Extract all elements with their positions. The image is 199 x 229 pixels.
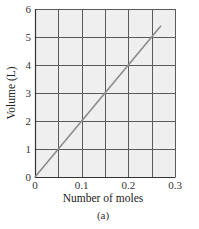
x-tick-label: 0.3 (168, 179, 182, 191)
y-tick-label: 3 (26, 87, 32, 99)
y-tick-label: 5 (26, 31, 32, 43)
y-tick-label: 2 (26, 115, 32, 127)
x-tick-labels: 00.10.20.3 (32, 179, 182, 191)
volume-vs-moles-chart: 00.10.20.3 0123456 Number of moles Volum… (0, 0, 199, 229)
y-tick-label: 1 (26, 143, 32, 155)
x-tick-label: 0 (32, 179, 38, 191)
figure-caption: (a) (97, 209, 110, 222)
y-axis-label: Volume (L) (5, 66, 18, 119)
x-tick-label: 0.1 (75, 179, 89, 191)
y-tick-label: 0 (26, 171, 32, 183)
x-tick-label: 0.2 (121, 179, 135, 191)
y-tick-labels: 0123456 (26, 3, 32, 183)
y-tick-label: 6 (26, 3, 32, 15)
y-tick-label: 4 (26, 59, 32, 71)
x-axis-label: Number of moles (63, 192, 144, 204)
